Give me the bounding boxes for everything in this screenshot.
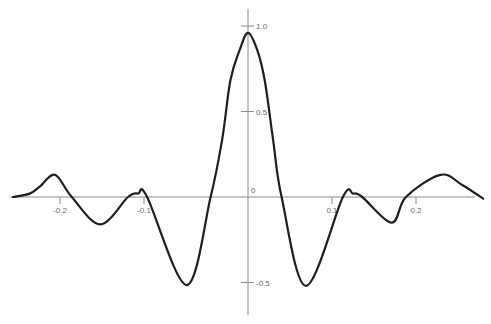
y-tick-label: -0.5 <box>256 279 270 288</box>
origin-label: 0 <box>251 186 256 195</box>
y-ticks: 1.00.5-0.5 <box>241 22 270 288</box>
x-tick-label: 0.2 <box>410 206 422 215</box>
x-tick-label: -0.1 <box>137 206 151 215</box>
chart: -0.2-0.10.10.2 1.00.5-0.5 0 <box>0 0 491 324</box>
y-tick-label: 0.5 <box>256 108 268 117</box>
x-tick-label: -0.2 <box>53 206 67 215</box>
y-tick-label: 1.0 <box>256 22 268 31</box>
